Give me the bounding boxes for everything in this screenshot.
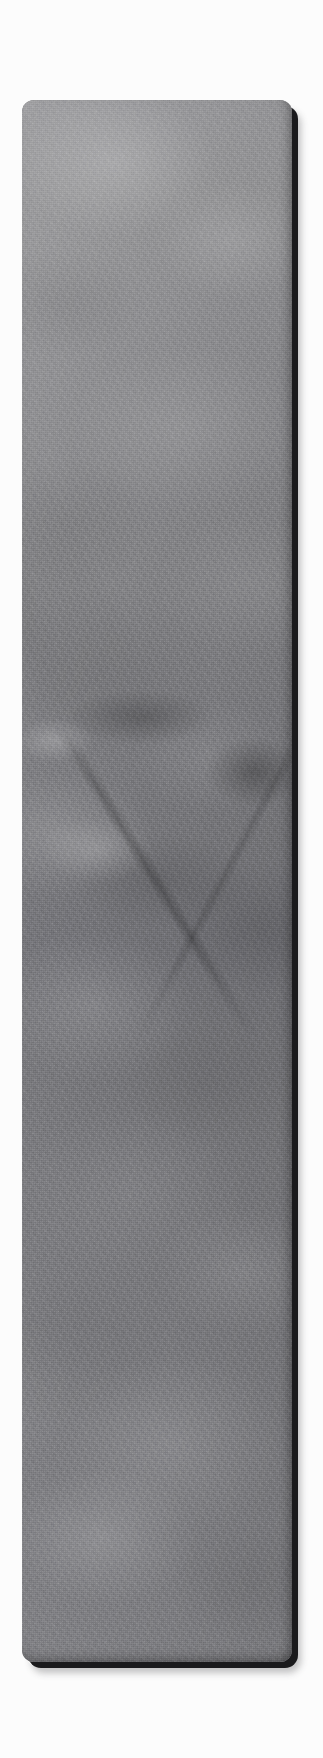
- stone-texture-card[interactable]: [22, 100, 292, 1662]
- texture-fine-grain: [22, 100, 292, 1662]
- texture-cloud-mottling: [22, 100, 292, 1662]
- texture-mid-dark-band: [22, 100, 292, 1662]
- texture-lower-bright-streaks: [22, 100, 292, 1662]
- texture-side-light: [22, 100, 292, 1662]
- texture-inner-shading: [22, 100, 292, 1662]
- texture-coarse-grain: [22, 100, 292, 1662]
- canvas: [0, 0, 323, 1758]
- card-face[interactable]: [22, 100, 292, 1662]
- texture-upper-diagonal-vein: [22, 100, 292, 1662]
- texture-hairline-crack: [22, 100, 292, 1662]
- texture-base-gradient: [22, 100, 292, 1662]
